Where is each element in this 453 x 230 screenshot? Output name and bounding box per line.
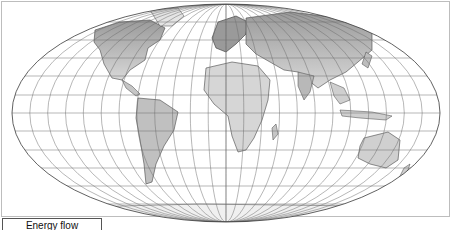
legend-box: Energy flow: [2, 218, 102, 230]
land-southeast-asia: [330, 82, 350, 104]
land-africa: [204, 62, 270, 152]
land-north-america: [94, 20, 165, 80]
land-central-america: [122, 80, 140, 96]
land-indonesia: [340, 110, 392, 120]
legend-title: Energy flow: [3, 220, 101, 230]
land-europe: [212, 16, 248, 52]
world-map: [0, 0, 453, 230]
land-madagascar: [272, 124, 278, 140]
land-new-zealand: [398, 164, 410, 180]
